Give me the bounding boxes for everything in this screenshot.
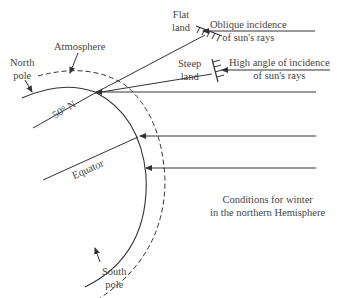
south-pole-label: Southpole	[102, 265, 127, 291]
oblique-label: Oblique incidenceof sun's rays	[210, 18, 287, 44]
atmosphere-label: Atmosphere	[54, 40, 105, 53]
diagram-graphics	[0, 0, 341, 298]
north-pole-label: Northpole	[10, 56, 35, 82]
high-angle-label: High angle of incidenceof sun's rays	[229, 56, 330, 82]
winter-insolation-diagram: Flatland Oblique incidenceof sun's rays …	[0, 0, 341, 298]
earth-surface-arc	[22, 87, 146, 287]
caption: Conditions for winterin the northern Hem…	[210, 193, 325, 219]
flat-land-label: Flatland	[172, 8, 190, 34]
steep-land-label: Steepland	[178, 57, 201, 83]
